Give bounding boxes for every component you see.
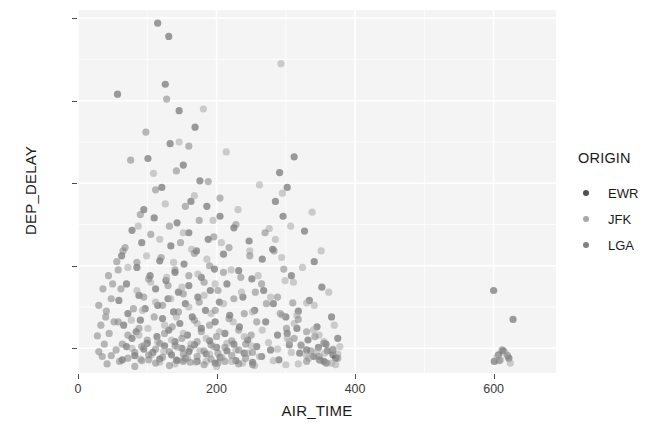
legend-item-ewr[interactable]: EWR [578, 180, 664, 206]
y-tick-mark [72, 101, 77, 102]
legend-label: EWR [608, 186, 638, 201]
legend-swatch-icon [578, 216, 594, 222]
legend-items: EWRJFKLGA [578, 180, 664, 258]
legend-dot-icon [583, 216, 589, 222]
scatter-plot-figure: 0100200300400 0200400600 AIR_TIME DEP_DE… [0, 0, 664, 437]
y-tick-mark [72, 183, 77, 184]
x-axis-title: AIR_TIME [78, 402, 556, 419]
x-tick-label: 400 [345, 382, 366, 396]
legend-swatch-icon [578, 190, 594, 196]
y-tick-mark [72, 348, 77, 349]
legend-item-jfk[interactable]: JFK [578, 206, 664, 232]
x-tick-mark [494, 374, 495, 379]
legend: ORIGIN EWRJFKLGA [578, 150, 664, 258]
legend-label: LGA [608, 238, 634, 253]
x-tick-label: 200 [206, 382, 227, 396]
x-tick-mark [355, 374, 356, 379]
data-points-layer [78, 10, 556, 373]
x-tick-label: 0 [75, 382, 82, 396]
x-tick-mark [78, 374, 79, 379]
legend-dot-icon [583, 242, 589, 248]
plot-panel [78, 10, 556, 373]
x-tick-label: 600 [483, 382, 504, 396]
y-tick-mark [72, 18, 77, 19]
x-tick-mark [217, 374, 218, 379]
legend-dot-icon [583, 190, 589, 196]
legend-label: JFK [608, 212, 631, 227]
legend-title: ORIGIN [578, 150, 664, 166]
legend-swatch-icon [578, 242, 594, 248]
y-axis-title: DEP_DELAY [22, 91, 39, 291]
y-tick-mark [72, 266, 77, 267]
x-axis-ticks: 0200400600 [0, 382, 664, 402]
legend-item-lga[interactable]: LGA [578, 232, 664, 258]
